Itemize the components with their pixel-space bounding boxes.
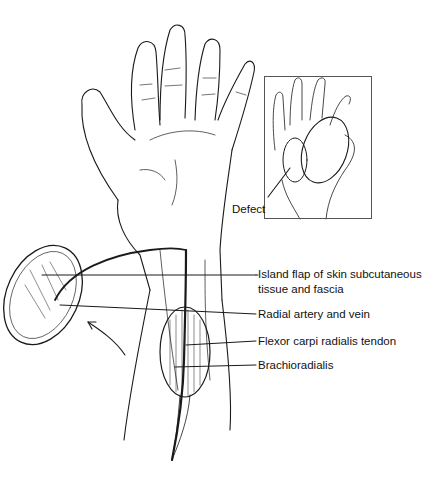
defect-label: Defect <box>232 202 265 217</box>
label-fcr-tendon: Flexor carpi radialis tendon <box>258 334 396 349</box>
forearm-drawing <box>124 250 231 460</box>
label-radial-artery: Radial artery and vein <box>258 307 370 322</box>
inset-frame <box>264 76 372 219</box>
forearm-flap-illustration <box>0 0 443 494</box>
island-flap-drawing <box>0 233 186 358</box>
label-brachioradialis: Brachioradialis <box>258 358 333 373</box>
label-island-flap: Island flap of skin subcutaneous tissue … <box>258 267 443 297</box>
